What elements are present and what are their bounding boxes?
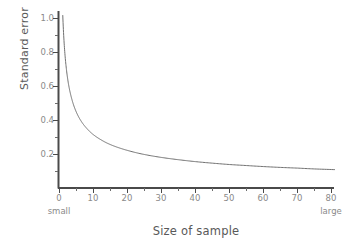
data-curve-standard-error — [63, 15, 335, 170]
y-major-ticks — [53, 19, 58, 155]
chart-canvas — [0, 0, 345, 246]
chart-figure: Standard error Size of sample 1.0 0.8 0.… — [0, 0, 345, 246]
